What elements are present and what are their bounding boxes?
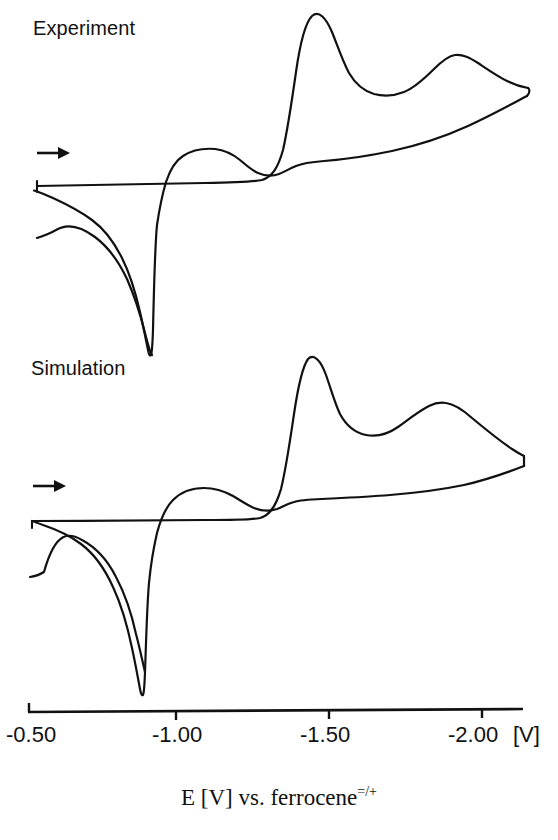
simulation-forward-sweep <box>32 357 524 521</box>
right-arrow-icon <box>37 147 70 159</box>
x-axis-tick-label-3: -2.00 <box>448 722 498 748</box>
cyclic-voltammogram-figure: Experiment Simulation -0.50 -1.00 -1.50 … <box>0 0 558 840</box>
experiment-reverse-sweep-upper <box>34 96 527 356</box>
x-axis-title-superscript: =/+ <box>357 784 377 799</box>
voltammogram-plot-area <box>0 0 558 840</box>
simulation-trace-group <box>30 357 524 695</box>
panel-label-simulation: Simulation <box>31 357 125 380</box>
simulation-reverse-sweep-tail <box>30 536 145 672</box>
x-axis <box>28 703 523 720</box>
experiment-switching-point <box>527 88 529 96</box>
right-arrow-icon <box>33 480 66 492</box>
x-axis-tick-label-1: -1.00 <box>152 722 202 748</box>
x-axis-tick-label-2: -1.50 <box>300 722 350 748</box>
x-axis-tick-label-0: -0.50 <box>6 722 56 748</box>
x-axis-title: E [V] vs. ferrocene=/+ <box>0 785 558 811</box>
x-axis-line <box>28 709 523 712</box>
experiment-trace-group <box>34 14 529 356</box>
x-axis-title-main: E [V] vs. ferrocene <box>181 785 357 810</box>
panel-label-experiment: Experiment <box>33 17 135 40</box>
x-axis-unit-label: [V] <box>513 722 540 748</box>
